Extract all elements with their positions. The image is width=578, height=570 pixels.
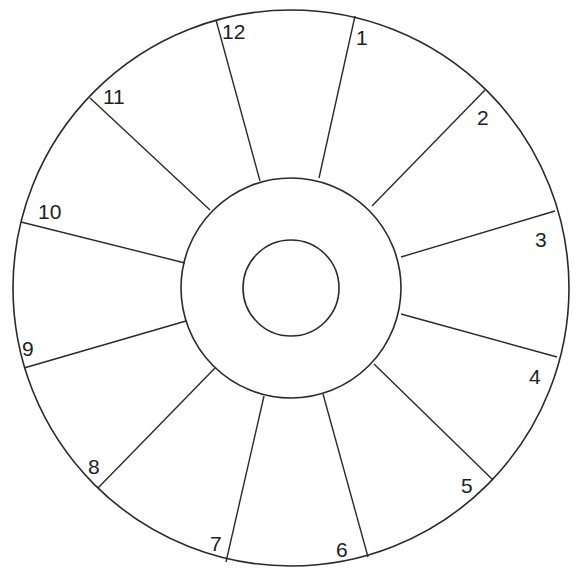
segment-label-9: 9 (22, 338, 34, 359)
segment-divider (323, 394, 368, 557)
segment-label-6: 6 (336, 539, 348, 560)
segment-divider (98, 368, 215, 488)
segment-label-2: 2 (477, 107, 489, 128)
middle-ring (181, 178, 401, 398)
segment-label-8: 8 (88, 456, 100, 477)
inner-ring (243, 240, 339, 336)
segment-divider (21, 222, 185, 263)
segment-divider (90, 98, 210, 210)
segment-label-3: 3 (535, 229, 547, 250)
segment-divider (372, 90, 485, 206)
segment-label-10: 10 (38, 201, 61, 222)
segment-label-1: 1 (356, 27, 368, 48)
segment-label-11: 11 (103, 86, 125, 107)
segment-divider (401, 314, 557, 357)
segment-divider (216, 20, 260, 181)
segment-divider (24, 321, 186, 368)
segment-divider (319, 16, 355, 178)
segment-label-7: 7 (210, 533, 222, 554)
segment-label-5: 5 (461, 475, 473, 496)
segment-label-4: 4 (529, 366, 541, 387)
segment-dividers (21, 16, 557, 562)
segment-label-12: 12 (222, 21, 245, 42)
segment-divider (374, 364, 493, 480)
segment-wheel (0, 0, 578, 570)
segment-divider (226, 396, 264, 562)
segment-divider (401, 211, 555, 257)
outer-ring (13, 10, 569, 566)
